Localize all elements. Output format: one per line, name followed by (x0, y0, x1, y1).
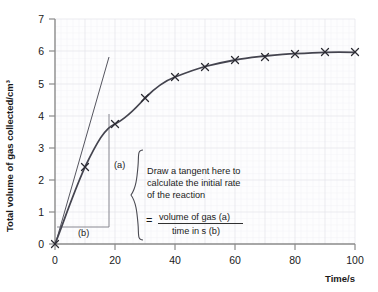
y-tick-label: 0 (38, 238, 44, 250)
x-axis-ticks (55, 244, 355, 250)
x-axis-title: Time/s (325, 273, 355, 284)
note-line-3: of the reaction (147, 190, 205, 200)
chart-figure: 0 1 2 3 4 5 6 7 0 20 40 60 80 100 Total … (0, 0, 378, 292)
equals-sign: = (146, 214, 152, 226)
x-tick-label: 80 (289, 254, 301, 266)
y-tick-label: 2 (38, 174, 44, 186)
x-axis-tick-labels: 0 20 40 60 80 100 (52, 254, 364, 266)
y-tick-label: 7 (38, 13, 44, 25)
y-tick-label: 3 (38, 142, 44, 154)
note-line-2: calculate the initial rate (147, 178, 240, 188)
x-tick-label: 0 (52, 254, 58, 266)
y-axis-title: Total volume of gas collected/cm³ (4, 80, 15, 232)
note-line-1: Draw a tangent here to (147, 166, 240, 176)
y-tick-label: 5 (38, 78, 44, 90)
y-axis-tick-labels: 0 1 2 3 4 5 6 7 (38, 13, 44, 250)
label-b: (b) (78, 228, 89, 238)
fraction-numerator: volume of gas (a) (159, 212, 230, 222)
x-tick-label: 100 (346, 254, 364, 266)
y-tick-label: 6 (38, 45, 44, 57)
y-tick-label: 4 (38, 110, 44, 122)
label-a: (a) (114, 160, 125, 170)
x-tick-label: 20 (109, 254, 121, 266)
y-axis-ticks (49, 19, 55, 244)
x-tick-label: 40 (169, 254, 181, 266)
x-tick-label: 60 (229, 254, 241, 266)
fraction-denominator: time in s (b) (172, 226, 220, 236)
gas-volume-vs-time-chart: 0 1 2 3 4 5 6 7 0 20 40 60 80 100 Total … (0, 0, 378, 292)
y-tick-label: 1 (38, 206, 44, 218)
